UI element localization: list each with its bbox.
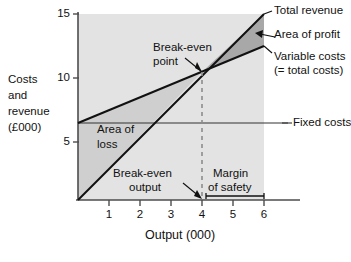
area-of-loss-label-line2: loss (97, 138, 117, 151)
total-revenue-label: Total revenue (274, 4, 343, 17)
area-of-loss-label-line1: Area of (97, 123, 134, 136)
x-tick-label-3: 3 (161, 208, 181, 220)
break-even-chart: 15 10 5 1 2 3 4 5 6 Output (000) Costs a… (0, 0, 351, 262)
variable-costs-label-line2: (= total costs) (274, 64, 343, 77)
y-tick-label-15: 15 (44, 7, 70, 19)
y-axis-title-line1: Costs (8, 73, 37, 86)
area-of-profit-label: Area of profit (274, 28, 340, 41)
x-tick-label-4: 4 (192, 208, 212, 220)
x-axis-title: Output (000) (145, 229, 215, 242)
y-tick-label-5: 5 (44, 135, 70, 147)
y-axis-title-line2: and (8, 89, 27, 102)
break-even-point-label-line1: Break-even (153, 41, 212, 54)
y-axis-title-line4: (£000) (8, 121, 41, 134)
variable-costs-label-line1: Variable costs (274, 50, 345, 63)
break-even-output-label-line1: Break-even (113, 167, 172, 180)
break-even-point-label-line2: point (153, 55, 178, 68)
fixed-costs-label: Fixed costs (293, 116, 351, 129)
x-tick-label-1: 1 (99, 208, 119, 220)
y-tick-label-10: 10 (44, 71, 70, 83)
variable-costs-label-leader (264, 46, 272, 53)
y-axis-title-line3: revenue (8, 105, 50, 118)
margin-of-safety-label-line2: of safety (208, 181, 251, 194)
x-tick-label-2: 2 (130, 208, 150, 220)
x-tick-label-6: 6 (254, 208, 274, 220)
total-revenue-label-leader (264, 11, 272, 14)
x-tick-label-5: 5 (223, 208, 243, 220)
break-even-output-label-line2: output (129, 181, 161, 194)
margin-of-safety-label-line1: Margin (213, 167, 248, 180)
